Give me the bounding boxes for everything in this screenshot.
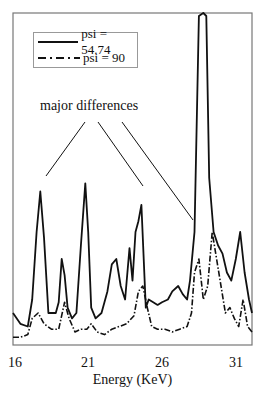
annotation-major-differences: major differences <box>40 98 138 114</box>
x-tick-26: 26 <box>155 355 169 371</box>
solid-line-icon <box>38 39 78 45</box>
legend-item-dashdot: psi = 90 <box>38 50 125 66</box>
x-tick-31: 31 <box>229 355 243 371</box>
annotation-lines <box>46 122 193 220</box>
series-psi-90 <box>13 232 252 337</box>
dash-dot-line-icon <box>38 55 80 61</box>
legend-item-solid: psi = 54.74 <box>38 34 137 50</box>
legend: psi = 54.74 psi = 90 <box>33 32 138 68</box>
x-tick-21: 21 <box>81 355 95 371</box>
x-axis-label: Energy (KeV) <box>0 372 265 388</box>
x-tick-16: 16 <box>8 355 22 371</box>
legend-label: psi = 90 <box>83 50 125 66</box>
